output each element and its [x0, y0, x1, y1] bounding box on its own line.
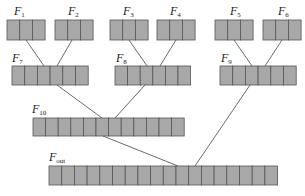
cell — [12, 66, 25, 85]
cell — [87, 166, 100, 185]
edge-6 — [57, 85, 102, 118]
cell — [240, 20, 253, 40]
cell — [189, 166, 202, 185]
feature-map-f4 — [157, 20, 195, 40]
cell — [163, 166, 176, 185]
edge-5 — [265, 40, 282, 66]
edge-0 — [26, 40, 44, 66]
cell — [74, 166, 87, 185]
cell — [83, 118, 96, 136]
cell — [258, 66, 271, 85]
cell — [49, 166, 62, 185]
cell — [20, 20, 33, 40]
label-subscript: 1 — [21, 11, 25, 19]
cell — [172, 118, 185, 136]
cell — [121, 118, 134, 136]
cell — [151, 166, 164, 185]
edge-7 — [115, 85, 145, 118]
cell — [123, 20, 136, 40]
feature-map-f1 — [7, 20, 45, 40]
cell — [7, 20, 20, 40]
cell — [115, 66, 128, 85]
cell — [182, 20, 195, 40]
label-subscript: 6 — [285, 11, 289, 19]
cell — [113, 166, 126, 185]
label-f8: F8 — [116, 52, 127, 66]
feature-map-f6 — [263, 20, 301, 40]
cell — [68, 20, 81, 40]
cell — [125, 166, 138, 185]
cell — [80, 20, 93, 40]
cell — [58, 118, 71, 136]
cell — [100, 166, 113, 185]
cell — [228, 20, 241, 40]
cell — [265, 166, 278, 185]
cell — [165, 66, 178, 85]
cell — [37, 66, 50, 85]
feature-fusion-diagram: F1F2F3F4F5F6F7F8F9F10Fout — [0, 0, 305, 196]
cell — [50, 66, 63, 85]
label-f7: F7 — [12, 52, 23, 66]
cell — [135, 20, 148, 40]
cell — [71, 118, 84, 136]
label-subscript: out — [56, 157, 65, 165]
label-f1: F1 — [14, 5, 25, 19]
cell — [140, 66, 153, 85]
label-f6: F6 — [278, 5, 289, 19]
feature-map-f10 — [33, 118, 184, 136]
cell — [159, 118, 172, 136]
cell — [110, 20, 123, 40]
diagram-canvas — [0, 0, 305, 196]
cell — [128, 66, 141, 85]
label-subscript: 3 — [130, 11, 134, 19]
cell — [263, 20, 276, 40]
cell — [176, 166, 189, 185]
feature-map-f7 — [12, 66, 88, 85]
label-f3: F3 — [123, 5, 134, 19]
label-subscript: 9 — [228, 58, 232, 66]
label-fout: Fout — [49, 151, 65, 165]
feature-map-f5 — [215, 20, 253, 40]
label-subscript: 8 — [123, 58, 127, 66]
cell — [33, 118, 46, 136]
cell — [227, 166, 240, 185]
label-f10: F10 — [32, 103, 46, 117]
cell — [178, 66, 191, 85]
cell — [276, 20, 289, 40]
cell — [134, 118, 147, 136]
cell — [245, 66, 258, 85]
edge-4 — [234, 40, 252, 66]
edge-2 — [129, 40, 147, 66]
cell — [240, 166, 253, 185]
label-f2: F2 — [68, 5, 79, 19]
cell — [233, 66, 246, 85]
cell — [252, 166, 265, 185]
cell — [76, 66, 89, 85]
feature-map-f2 — [55, 20, 93, 40]
edge-9 — [103, 136, 178, 166]
cell — [214, 166, 227, 185]
edge-3 — [160, 40, 176, 66]
label-subscript: 10 — [39, 109, 46, 117]
cell — [146, 118, 159, 136]
cell — [170, 20, 183, 40]
label-f4: F4 — [170, 5, 181, 19]
edge-8 — [195, 85, 250, 166]
feature-map-fout — [49, 166, 278, 185]
edge-1 — [57, 40, 72, 66]
feature-map-f8 — [115, 66, 191, 85]
cell — [63, 66, 76, 85]
cell — [138, 166, 151, 185]
cell — [32, 20, 45, 40]
cell — [62, 166, 75, 185]
cell — [215, 20, 228, 40]
label-subscript: 7 — [19, 58, 23, 66]
label-subscript: 5 — [237, 11, 241, 19]
cell — [201, 166, 214, 185]
label-f5: F5 — [230, 5, 241, 19]
label-subscript: 2 — [75, 11, 79, 19]
cell — [271, 66, 284, 85]
label-f9: F9 — [221, 52, 232, 66]
feature-map-f9 — [220, 66, 296, 85]
cell — [220, 66, 233, 85]
